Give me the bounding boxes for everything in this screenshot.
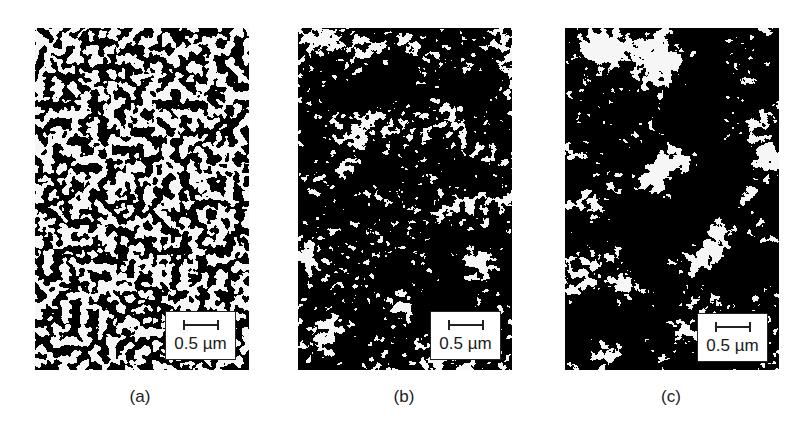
scale-bar-box-b: 0.5 µm xyxy=(430,311,501,360)
micrograph-panel-c: 0.5 µm xyxy=(565,28,779,370)
panel-caption-a: (a) xyxy=(110,387,170,407)
panel-caption-c: (c) xyxy=(641,387,701,407)
scale-bar-label-c: 0.5 µm xyxy=(698,336,767,356)
micrograph-panel-a: 0.5 µm xyxy=(35,28,249,370)
scale-bar-box-c: 0.5 µm xyxy=(697,313,768,362)
scale-bar-label-b: 0.5 µm xyxy=(431,334,500,354)
panel-caption-b: (b) xyxy=(374,387,434,407)
scale-bar-icon xyxy=(448,324,484,326)
scale-bar-box-a: 0.5 µm xyxy=(165,311,236,360)
scale-bar-label-a: 0.5 µm xyxy=(166,334,235,354)
scale-bar-icon xyxy=(715,326,751,328)
micrograph-panel-b: 0.5 µm xyxy=(298,28,512,370)
scale-bar-icon xyxy=(183,324,219,326)
